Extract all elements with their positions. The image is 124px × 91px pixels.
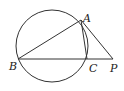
label-A: A [82, 12, 91, 25]
geometry-diagram: A B C P [0, 0, 124, 91]
segment-BA [18, 20, 81, 59]
label-C: C [89, 62, 98, 75]
label-P: P [109, 62, 118, 75]
circle [16, 10, 88, 82]
label-B: B [8, 60, 17, 73]
